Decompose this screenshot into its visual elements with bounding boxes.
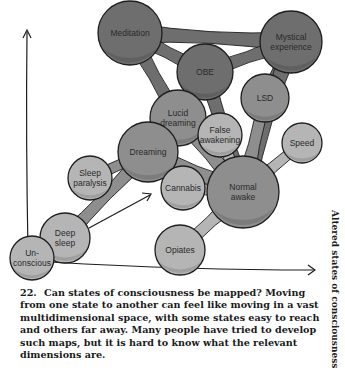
node-sleepparalysis: Sleepparalysis bbox=[68, 156, 112, 200]
node-deepsleep-label: Deep bbox=[55, 228, 76, 238]
node-unconscious-label: Un- bbox=[25, 248, 39, 258]
node-deepsleep-label: sleep bbox=[55, 238, 76, 248]
node-normal-label: Normal bbox=[229, 182, 257, 192]
figure-caption: 22. Can states of consciousness be mappe… bbox=[20, 287, 332, 361]
node-speed: Speed bbox=[282, 123, 322, 163]
node-unconscious: Un-conscious bbox=[10, 236, 54, 280]
figure-number: 22. bbox=[20, 287, 37, 298]
node-lucid-label: Lucid bbox=[168, 108, 189, 118]
node-meditation: Meditation bbox=[98, 1, 162, 65]
vertical-axis-arrow bbox=[27, 32, 28, 252]
node-false-label: False bbox=[210, 125, 231, 135]
node-mystical: Mysticalexperience bbox=[260, 11, 322, 73]
node-obe-label: OBE bbox=[196, 67, 214, 77]
node-lucid-label: dreaming bbox=[160, 118, 196, 128]
node-cannabis-label: Cannabis bbox=[165, 183, 201, 193]
caption-text: Can states of consciousness be mapped? M… bbox=[20, 287, 319, 360]
node-sleepparalysis-label: paralysis bbox=[73, 178, 107, 188]
node-unconscious-label: conscious bbox=[13, 258, 51, 268]
node-sleepparalysis-label: Sleep bbox=[79, 168, 101, 178]
node-normal: Normalawake bbox=[207, 156, 279, 228]
node-false-label: awakening bbox=[200, 135, 241, 145]
node-normal-label: awake bbox=[231, 192, 256, 202]
node-mystical-label: Mystical bbox=[276, 32, 307, 42]
nodes: MeditationOBEMysticalexperienceLuciddrea… bbox=[10, 1, 322, 280]
node-cannabis: Cannabis bbox=[161, 166, 205, 210]
node-false: Falseawakening bbox=[198, 113, 242, 157]
node-lsd: LSD bbox=[241, 74, 289, 122]
node-lsd-label: LSD bbox=[257, 93, 274, 103]
node-meditation-label: Meditation bbox=[110, 28, 149, 38]
node-mystical-label: experience bbox=[270, 42, 312, 52]
consciousness-map-diagram: MeditationOBEMysticalexperienceLuciddrea… bbox=[0, 0, 345, 290]
node-speed-label: Speed bbox=[290, 138, 315, 148]
side-running-title: Altered states of consciousness bbox=[330, 210, 340, 368]
node-opiates: Opiates bbox=[155, 225, 205, 275]
node-dreaming-label: Dreaming bbox=[130, 147, 167, 157]
node-opiates-label: Opiates bbox=[165, 245, 194, 255]
